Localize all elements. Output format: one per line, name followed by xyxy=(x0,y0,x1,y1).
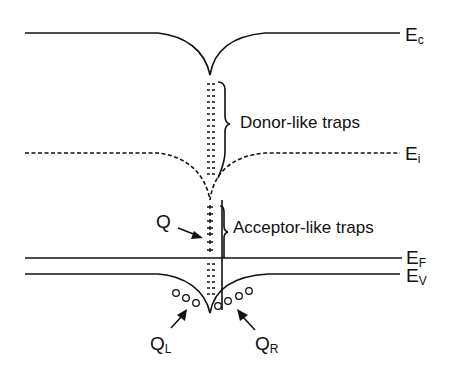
donor-brace xyxy=(218,82,230,178)
qr-arrow xyxy=(237,309,255,330)
band-diagram: Ec Ei EF EV Donor-like traps Acceptor-li… xyxy=(0,0,451,371)
ec-label: Ec xyxy=(405,25,424,46)
ei-label: Ei xyxy=(405,144,420,165)
ql-label: QL xyxy=(150,334,171,355)
qr-label: QR xyxy=(255,334,278,355)
q-arrow xyxy=(178,228,203,239)
donor-traps-label: Donor-like traps xyxy=(240,114,360,131)
acceptor-trap-marks xyxy=(207,205,213,252)
ei-band-line xyxy=(25,153,400,200)
band-diagram-graphic xyxy=(0,0,451,371)
ec-band-line xyxy=(25,33,400,75)
acceptor-traps-label: Acceptor-like traps xyxy=(233,219,374,236)
ql-arrow xyxy=(171,309,187,328)
ev-label: EV xyxy=(406,266,427,287)
donor-trap-marks xyxy=(207,84,215,294)
q-label: Q xyxy=(156,212,171,231)
